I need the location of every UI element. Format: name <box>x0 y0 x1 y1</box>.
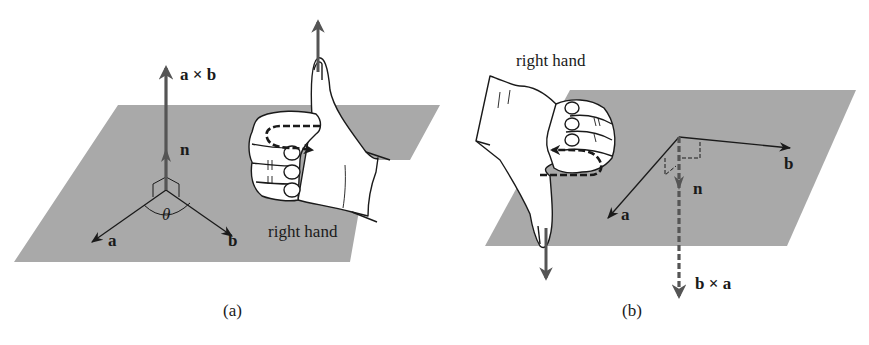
plane-a <box>14 105 440 262</box>
panel-b <box>476 76 856 296</box>
panel-a <box>14 22 440 262</box>
label-angle-theta: θ <box>162 206 170 223</box>
label-normal-b: n <box>693 180 702 197</box>
label-vector-a: a <box>108 232 117 249</box>
cross-product-diagram <box>0 0 869 345</box>
label-vector-b: b <box>228 232 237 249</box>
caption-a: (a) <box>223 302 242 319</box>
label-cross-product-b: b × a <box>695 275 731 292</box>
label-vector-b-b: b <box>784 155 793 172</box>
caption-b: (b) <box>622 302 642 319</box>
label-cross-product-a: a × b <box>180 66 216 83</box>
label-right-hand-b: right hand <box>516 52 585 69</box>
label-normal-a: n <box>180 141 189 158</box>
label-right-hand-a: right hand <box>268 223 337 240</box>
label-vector-a-b: a <box>621 206 630 223</box>
